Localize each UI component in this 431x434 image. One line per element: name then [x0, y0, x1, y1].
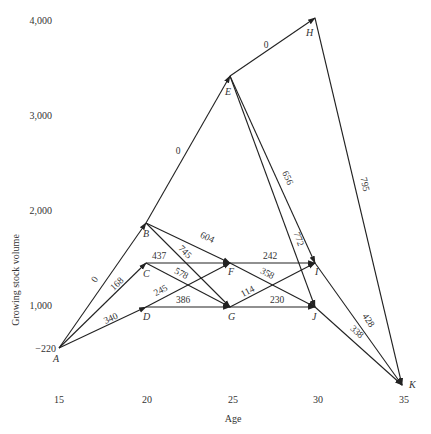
- y-axis: 4,000 3,000 2,000 1,000 −220 Growing sto…: [10, 15, 56, 354]
- network-diagram: 4,000 3,000 2,000 1,000 −220 Growing sto…: [0, 0, 431, 434]
- node-b: B: [143, 228, 149, 239]
- node-e: E: [224, 86, 231, 97]
- node-i: I: [314, 266, 319, 277]
- edge-label-h-k: 795: [358, 176, 371, 192]
- x-axis: 15 20 25 30 35 Age: [54, 394, 409, 424]
- node-c: C: [143, 268, 150, 279]
- edge-label-b-e: 0: [176, 146, 181, 156]
- y-tick: 3,000: [30, 110, 53, 121]
- edge-a-d: [59, 307, 146, 348]
- node-h: H: [305, 27, 314, 38]
- edge-label-a-c: 168: [108, 275, 125, 292]
- edge-label-g-j: 230: [270, 295, 285, 305]
- node-a: A: [52, 353, 60, 364]
- edge-b-e: [146, 76, 230, 223]
- edge-j-k: [315, 307, 402, 385]
- edge-e-h: [230, 18, 315, 76]
- x-tick: 15: [54, 394, 64, 405]
- edge-label-f-i: 242: [263, 251, 278, 261]
- y-tick: 2,000: [30, 205, 53, 216]
- edge-label-g-i: 114: [239, 284, 256, 299]
- edge-label-i-k: 428: [360, 312, 376, 330]
- node-k: K: [408, 379, 417, 390]
- edge-label-e-h: 0: [264, 40, 269, 50]
- edge-label-a-b: 0: [89, 274, 100, 284]
- x-tick: 20: [142, 394, 152, 405]
- y-tick: 4,000: [30, 15, 53, 26]
- edge-label-b-f: 604: [199, 230, 216, 245]
- x-tick: 25: [228, 394, 238, 405]
- edge-label-e-j: 772: [292, 231, 306, 248]
- edge-label-c-f: 437: [152, 251, 167, 261]
- x-tick: 30: [313, 394, 323, 405]
- node-d: D: [142, 311, 151, 322]
- edge-label-b-g: 745: [177, 243, 194, 260]
- node-g: G: [228, 311, 235, 322]
- edge-label-d-g: 386: [176, 295, 191, 305]
- edge-a-b: [59, 223, 146, 348]
- x-tick: 35: [399, 394, 409, 405]
- y-tick: 1,000: [30, 300, 53, 311]
- edge-label-e-i: 656: [280, 169, 295, 186]
- edge-label-a-d: 340: [102, 311, 119, 326]
- y-axis-title: Growing stock volume: [10, 234, 21, 326]
- x-axis-title: Age: [225, 413, 242, 424]
- edge-label-j-k: 338: [348, 323, 365, 340]
- node-f: F: [227, 266, 235, 277]
- node-j: J: [312, 311, 317, 322]
- edge-i-k: [315, 263, 402, 385]
- edge-a-c: [59, 263, 146, 348]
